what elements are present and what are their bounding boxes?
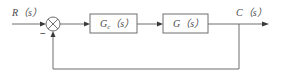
feedback-arrow-icon bbox=[51, 31, 56, 37]
error-arrow-icon bbox=[84, 22, 90, 27]
output-arrow-icon bbox=[262, 22, 269, 27]
output-label: C（s） bbox=[236, 7, 267, 18]
input-arrow-icon bbox=[40, 22, 46, 27]
control-arrow-icon bbox=[157, 22, 163, 27]
feedback-sign: − bbox=[40, 28, 46, 39]
input-label: R（s） bbox=[11, 7, 42, 18]
plant-block-label: G（s） bbox=[173, 18, 204, 29]
plant-block: G（s） bbox=[163, 14, 208, 33]
summing-junction bbox=[46, 17, 60, 31]
feedback-path-line bbox=[53, 24, 239, 69]
controller-block: Gc（s） bbox=[90, 14, 137, 33]
block-diagram: R（s） − Gc（s） G（s） C（s） bbox=[0, 0, 282, 77]
